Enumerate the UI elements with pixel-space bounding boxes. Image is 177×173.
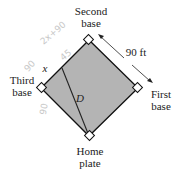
third-base-line2: base (6, 86, 38, 98)
home-plate-label: Home plate (68, 145, 112, 169)
first-base-label: First base (146, 88, 176, 112)
first-base-line1: First (146, 88, 176, 100)
home-plate-line2: plate (68, 157, 112, 169)
second-base-line1: Second (66, 5, 116, 17)
third-base-line1: Third (6, 74, 38, 86)
handwritten-note-bottom-left: 90 (38, 102, 50, 115)
side-length-label: 90 ft (116, 46, 156, 58)
home-plate-line1: Home (68, 145, 112, 157)
diagonal-d-label: D (74, 92, 86, 104)
segment-x-label: x (40, 62, 50, 74)
dimension-arrow-bottom (132, 65, 150, 81)
arrowhead-top-icon (98, 34, 104, 39)
third-base-label: Third base (6, 74, 38, 98)
second-base-line2: base (66, 17, 116, 29)
second-base-label: Second base (66, 5, 116, 29)
first-base-line2: base (146, 100, 176, 112)
